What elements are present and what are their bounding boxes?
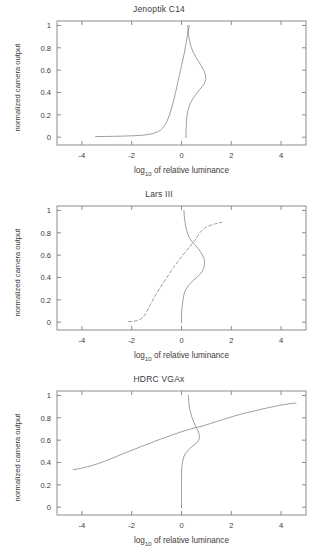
y-tick-label: 1: [23, 21, 51, 30]
curve-solid: [182, 395, 200, 507]
x-tick-label: -4: [79, 151, 86, 160]
x-tick-label: -2: [128, 151, 135, 160]
y-tick-label: 1: [23, 391, 51, 400]
y-tick-label: 0.4: [23, 458, 51, 467]
y-tick-label: 0.4: [23, 88, 51, 97]
x-tick-label: -4: [79, 521, 86, 530]
curve-solid: [73, 403, 296, 470]
x-tick-label: 2: [229, 336, 233, 345]
x-tick-label: -2: [128, 336, 135, 345]
x-tick-label: 4: [279, 336, 283, 345]
curve-solid: [182, 210, 205, 322]
x-tick-label: 2: [229, 521, 233, 530]
x-tick-label: -4: [79, 336, 86, 345]
y-tick-label: 0: [23, 503, 51, 512]
x-tick-label: 0: [179, 151, 183, 160]
chart-panel-hdrc-vgax: HDRC VGAx normalized camera output log10…: [0, 370, 318, 555]
x-tick-label: 4: [279, 151, 283, 160]
y-tick-label: 0.2: [23, 480, 51, 489]
y-tick-label: 0: [23, 133, 51, 142]
y-tick-label: 0.8: [23, 228, 51, 237]
y-tick-label: 0.4: [23, 273, 51, 282]
y-tick-label: 1: [23, 206, 51, 215]
y-tick-label: 0.2: [23, 110, 51, 119]
y-tick-label: 0.6: [23, 436, 51, 445]
curve-dashed: [129, 222, 222, 321]
y-tick-label: 0.2: [23, 295, 51, 304]
x-tick-label: 4: [279, 521, 283, 530]
camera-response-figure: Jenoptik C14 normalized camera output lo…: [0, 0, 318, 560]
x-tick-label: 0: [179, 336, 183, 345]
plot-frame: [57, 21, 306, 145]
curve-solid: [96, 25, 190, 136]
chart-panel-jenoptik-c14: Jenoptik C14 normalized camera output lo…: [0, 0, 318, 185]
y-tick-label: 0.8: [23, 413, 51, 422]
chart-panel-lars-iii: Lars III normalized camera output log10 …: [0, 185, 318, 370]
y-tick-label: 0: [23, 318, 51, 327]
x-tick-label: 0: [179, 521, 183, 530]
y-tick-label: 0.8: [23, 43, 51, 52]
curve-solid: [186, 25, 206, 137]
x-tick-label: 2: [229, 151, 233, 160]
y-tick-label: 0.6: [23, 251, 51, 260]
x-tick-label: -2: [128, 521, 135, 530]
y-tick-label: 0.6: [23, 66, 51, 75]
